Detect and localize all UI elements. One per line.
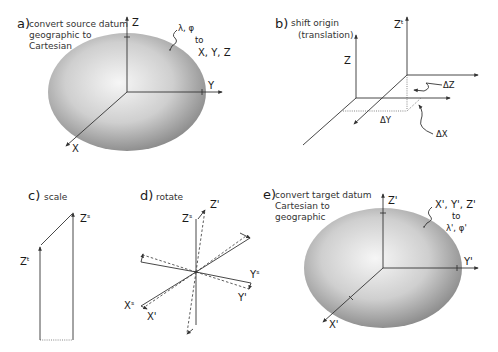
axis-label-y: Y <box>207 80 215 91</box>
y-axis-s <box>196 272 251 283</box>
x-axis-rotated <box>146 272 196 306</box>
scale-connector <box>41 214 72 245</box>
panel-e: e) convert target datum Cartesian to geo… <box>263 187 478 330</box>
panel-d: d) rotate Zˢ Z' Yˢ Y' Xˢ X' <box>124 188 260 334</box>
panel-a-desc-2: geographic to <box>29 30 92 40</box>
panel-a-desc-1: convert source datum <box>29 19 128 29</box>
annot-to-word: to <box>195 35 204 45</box>
panel-b-desc-1: shift origin <box>291 18 339 28</box>
panel-e-desc-2: Cartesian to <box>275 201 330 211</box>
panel-e-desc-1: convert target datum <box>275 190 372 200</box>
panel-d-desc: rotate <box>156 192 184 202</box>
axis-label-z: Z <box>132 17 139 28</box>
panel-a-desc-3: Cartesian <box>29 41 72 51</box>
axis-label-x: X <box>72 143 79 154</box>
panel-b-letter: b) <box>275 16 288 31</box>
x-axis-original <box>303 98 356 145</box>
axis-label-y-prime: Y' <box>463 256 473 267</box>
axis-label-z-prime: Z' <box>388 195 398 206</box>
delta-x-leader <box>419 105 433 134</box>
panel-d-letter: d) <box>140 188 153 203</box>
panel-e-desc-3: geographic <box>275 212 326 222</box>
panel-a: a) convert source datum geographic to Ca… <box>17 16 231 154</box>
axis-label-z: Z <box>344 55 351 66</box>
axis-label-zs: Zˢ <box>80 213 91 224</box>
delta-y-label: ΔY <box>380 115 392 125</box>
panel-b: b) shift origin (translation) Z Zᵗ ΔZ ΔY… <box>275 16 478 145</box>
delta-x-label: ΔX <box>436 129 448 139</box>
annot-from: X', Y', Z' <box>435 199 476 210</box>
z-axis-rotated <box>196 210 205 272</box>
axis-label-zs: Zˢ <box>182 213 193 224</box>
axis-label-ys: Yˢ <box>249 269 260 280</box>
panel-c-letter: c) <box>28 188 40 203</box>
annot-to: λ', φ' <box>446 223 467 233</box>
axis-label-y-prime: Y' <box>237 292 247 303</box>
y-axis-rotated <box>196 272 249 289</box>
annot-from: λ, φ <box>178 23 194 33</box>
axis-label-zt: Zᵗ <box>394 19 404 30</box>
axis-label-z-prime: Z' <box>210 199 220 210</box>
axis-label-x-prime: X' <box>329 319 339 330</box>
annot-to-word: to <box>452 211 461 221</box>
axis-label-xs: Xˢ <box>124 300 135 311</box>
y-axis-s-back <box>196 238 250 272</box>
panel-c-desc: scale <box>44 192 68 202</box>
datum-transformation-diagram: a) convert source datum geographic to Ca… <box>0 0 498 352</box>
panel-b-desc-2: (translation) <box>298 30 353 40</box>
panel-c: c) scale Zᵗ Zˢ <box>20 188 91 340</box>
x-axis-s <box>141 272 196 306</box>
delta-z-leader <box>414 83 442 91</box>
delta-z-label: ΔZ <box>443 80 455 90</box>
axis-label-zt: Zᵗ <box>20 256 30 267</box>
axis-label-x-prime: X' <box>147 311 157 322</box>
annot-to: X, Y, Z <box>198 47 231 58</box>
